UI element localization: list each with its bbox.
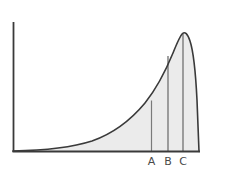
tick-label-a: A <box>145 156 159 167</box>
chart-container: A B C <box>0 0 227 179</box>
tick-label-c: C <box>176 156 190 167</box>
curve-area-fill <box>13 33 199 152</box>
distribution-chart <box>0 0 227 179</box>
tick-label-b: B <box>161 156 175 167</box>
